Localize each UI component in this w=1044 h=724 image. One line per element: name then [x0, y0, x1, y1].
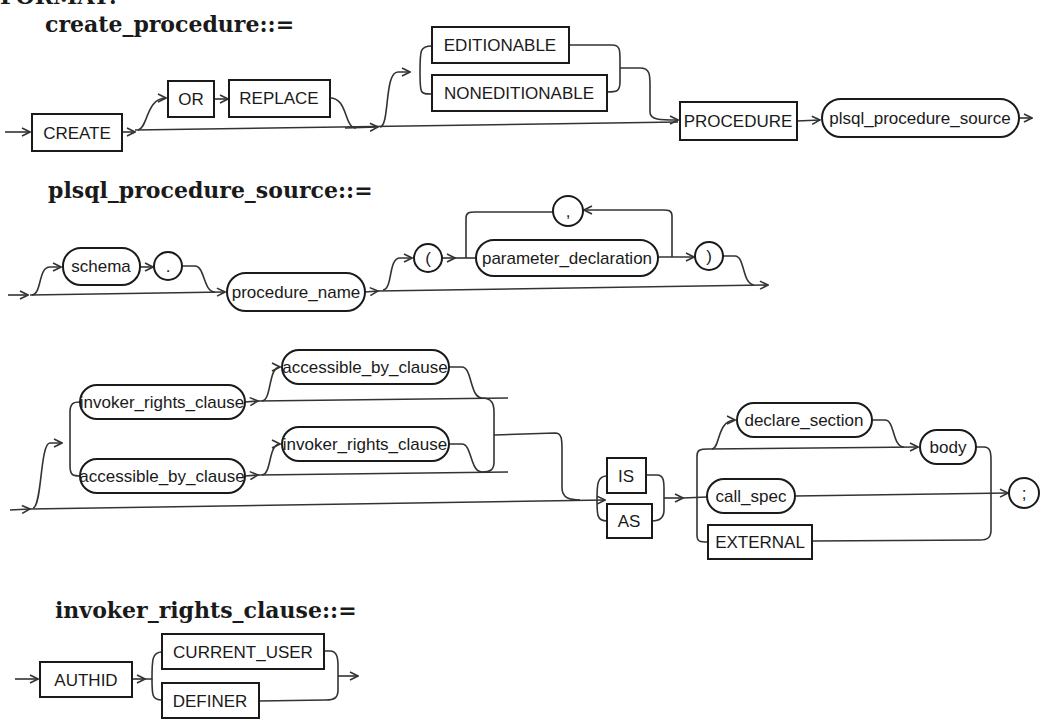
main-line: [30, 292, 225, 295]
branch-line: [152, 679, 162, 700]
svg-text:DEFINER: DEFINER: [173, 692, 248, 711]
arrow: [797, 120, 820, 121]
arrow: [345, 127, 378, 128]
branch-line: [449, 444, 482, 472]
branch-line: [145, 652, 162, 679]
comma-symbol[interactable]: ,: [553, 196, 583, 226]
branch-line: [383, 258, 412, 290]
branch-line: [420, 72, 432, 94]
svg-text:IS: IS: [618, 467, 634, 486]
svg-text:invoker_rights_clause: invoker_rights_clause: [283, 435, 447, 454]
arrow: [245, 475, 258, 476]
branch-line: [449, 367, 482, 398]
svg-text:NONEDITIONABLE: NONEDITIONABLE: [444, 84, 594, 103]
line: [708, 447, 918, 449]
plsql-procedure-source-title: plsql_procedure_source::=: [48, 177, 373, 203]
svg-text:accessible_by_clause: accessible_by_clause: [79, 467, 244, 486]
authid-keyword[interactable]: AUTHID: [40, 662, 132, 697]
plsql-procedure-source-diagram: plsql_procedure_source::= schema . proc: [8, 177, 1039, 559]
branch-line: [262, 367, 280, 401]
body-ref[interactable]: body: [920, 430, 976, 464]
branch-line: [380, 72, 410, 127]
branch-line: [597, 476, 607, 500]
plsql-procedure-source-ref[interactable]: plsql_procedure_source: [822, 99, 1019, 137]
procedure-keyword[interactable]: PROCEDURE: [680, 102, 797, 140]
svg-text:OR: OR: [178, 90, 204, 109]
accessible-by-clause-ref-2[interactable]: accessible_by_clause: [79, 459, 245, 493]
create-keyword[interactable]: CREATE: [32, 114, 122, 151]
branch-line: [723, 256, 754, 285]
replace-keyword[interactable]: REPLACE: [229, 80, 330, 117]
definer-keyword[interactable]: DEFINER: [162, 683, 259, 718]
svg-text:accessible_by_clause: accessible_by_clause: [282, 358, 447, 377]
current-user-keyword[interactable]: CURRENT_USER: [162, 634, 324, 669]
semicolon-symbol[interactable]: ;: [1009, 478, 1039, 508]
line: [258, 398, 508, 401]
line: [795, 493, 1008, 496]
invoker-rights-clause-ref-1[interactable]: invoker_rights_clause: [80, 385, 245, 419]
external-keyword[interactable]: EXTERNAL: [708, 525, 812, 559]
as-keyword[interactable]: AS: [607, 504, 652, 538]
svg-text:): ): [706, 247, 712, 266]
format-label: FORMAT:: [0, 0, 117, 9]
branch-line: [33, 443, 62, 508]
create-procedure-diagram: create_procedure::= CREATE OR REPLACE: [5, 11, 1032, 151]
branch-line: [330, 98, 356, 128]
branch-line: [182, 266, 215, 292]
svg-text:schema: schema: [71, 257, 131, 276]
svg-text:PROCEDURE: PROCEDURE: [684, 112, 793, 131]
arrow: [245, 401, 258, 402]
branch-line: [697, 497, 708, 542]
noneditionable-keyword[interactable]: NONEDITIONABLE: [432, 75, 607, 111]
accessible-by-clause-ref-1[interactable]: accessible_by_clause: [282, 350, 449, 384]
merge-line: [494, 433, 580, 500]
main-line: [378, 285, 768, 291]
call-spec-ref[interactable]: call_spec: [707, 479, 795, 513]
branch-line: [262, 444, 280, 475]
branch-line: [872, 420, 904, 447]
svg-text:invoker_rights_clause: invoker_rights_clause: [80, 393, 244, 412]
syntax-diagram-canvas: FORMAT: create_procedure::= CREATE OR: [0, 0, 1044, 724]
close-paren-symbol[interactable]: ): [695, 242, 723, 270]
svg-text:body: body: [930, 438, 967, 457]
svg-text:procedure_name: procedure_name: [232, 283, 361, 302]
branch-line: [138, 98, 166, 130]
branch-line: [712, 420, 735, 449]
svg-text:EXTERNAL: EXTERNAL: [715, 533, 805, 552]
svg-text:REPLACE: REPLACE: [239, 89, 318, 108]
editionable-keyword[interactable]: EDITIONABLE: [432, 27, 569, 63]
svg-text:EDITIONABLE: EDITIONABLE: [444, 36, 556, 55]
arrow: [365, 291, 378, 292]
branch-line: [620, 68, 678, 120]
svg-text:.: .: [166, 257, 171, 276]
svg-text:call_spec: call_spec: [716, 487, 787, 506]
schema-ref[interactable]: schema: [63, 248, 140, 285]
create-procedure-title: create_procedure::=: [45, 11, 294, 37]
dot-symbol[interactable]: .: [154, 252, 182, 280]
procedure-name-ref[interactable]: procedure_name: [227, 273, 365, 311]
invoker-rights-clause-title: invoker_rights_clause::=: [55, 597, 357, 623]
open-paren-symbol[interactable]: (: [414, 244, 442, 272]
svg-text:;: ;: [1022, 484, 1027, 503]
invoker-rights-clause-ref-2[interactable]: invoker_rights_clause: [282, 427, 449, 461]
svg-text:(: (: [425, 249, 431, 268]
branch-line: [420, 46, 432, 72]
main-line: [135, 122, 678, 130]
merge-line: [482, 398, 494, 472]
is-keyword[interactable]: IS: [607, 458, 646, 493]
branch-line: [70, 402, 80, 443]
svg-text:CURRENT_USER: CURRENT_USER: [173, 643, 313, 662]
or-keyword[interactable]: OR: [168, 81, 214, 117]
entry-arrow: [10, 509, 30, 510]
svg-text:plsql_procedure_source: plsql_procedure_source: [829, 109, 1010, 128]
invoker-rights-clause-diagram: invoker_rights_clause::= AUTHID CURRENT_…: [15, 597, 358, 718]
svg-text:,: ,: [566, 202, 571, 221]
parameter-declaration-ref[interactable]: parameter_declaration: [476, 240, 658, 276]
svg-text:AS: AS: [618, 512, 641, 531]
declare-section-ref[interactable]: declare_section: [737, 403, 872, 437]
line: [258, 472, 508, 475]
svg-text:parameter_declaration: parameter_declaration: [482, 249, 652, 268]
branch-line: [597, 500, 607, 521]
main-line: [30, 500, 605, 509]
svg-text:declare_section: declare_section: [744, 411, 863, 430]
